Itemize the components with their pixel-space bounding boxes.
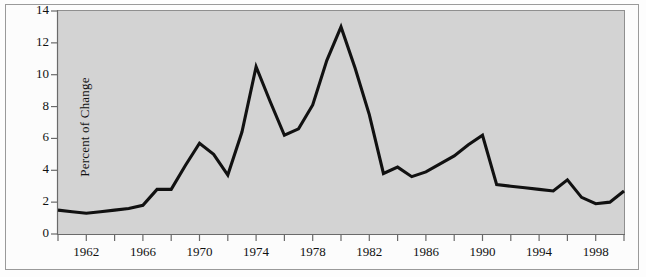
chart-container: Percent of Change 02468101214 1962196619… bbox=[0, 0, 646, 277]
y-axis-title: Percent of Change bbox=[77, 37, 93, 217]
plot-area: Percent of Change bbox=[57, 10, 625, 235]
x-tick-label: 1994 bbox=[517, 244, 561, 260]
x-tick-label: 1966 bbox=[121, 244, 165, 260]
x-tick-label: 1998 bbox=[574, 244, 618, 260]
y-tick-label: 4 bbox=[23, 161, 49, 177]
y-tick-label: 2 bbox=[23, 193, 49, 209]
x-tick-label: 1962 bbox=[64, 244, 108, 260]
x-tick-label: 1990 bbox=[461, 244, 505, 260]
x-tick-label: 1978 bbox=[291, 244, 335, 260]
y-tick-label: 14 bbox=[23, 2, 49, 18]
x-tick-label: 1974 bbox=[234, 244, 278, 260]
x-tick-label: 1970 bbox=[178, 244, 222, 260]
y-tick-label: 6 bbox=[23, 129, 49, 145]
y-tick-label: 0 bbox=[23, 225, 49, 241]
x-tick-label: 1986 bbox=[404, 244, 448, 260]
y-tick-label: 12 bbox=[23, 34, 49, 50]
y-tick-label: 10 bbox=[23, 66, 49, 82]
x-tick-label: 1982 bbox=[347, 244, 391, 260]
y-tick-label: 8 bbox=[23, 98, 49, 114]
